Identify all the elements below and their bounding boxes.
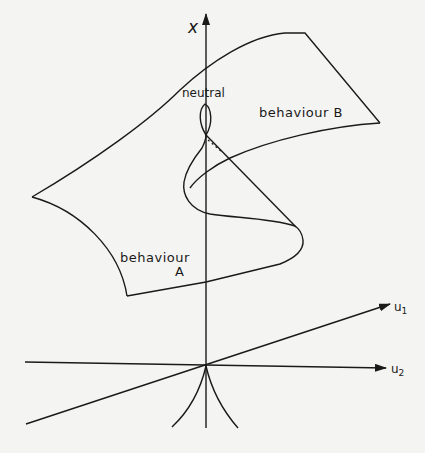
neutral-label: neutral xyxy=(182,86,225,100)
surface-upper-fold-edge xyxy=(190,123,380,188)
u1-axis-label: u1 xyxy=(394,300,407,316)
behaviour-b-label: behaviour B xyxy=(259,105,343,120)
u2-axis-label: u2 xyxy=(391,362,404,378)
behaviour-a-label-line1: behaviour xyxy=(120,250,190,265)
x-axis-label: x xyxy=(187,17,199,37)
surface-left-edge xyxy=(32,197,127,296)
behaviour-a-label-line2: A xyxy=(175,264,184,279)
hidden-fold-dotted xyxy=(208,140,222,152)
cusp-catastrophe-diagram: x u1 u2 neutral behaviour B behaviour A xyxy=(0,0,425,453)
u1-axis xyxy=(26,304,390,424)
cusp-curve-left xyxy=(172,366,206,427)
cusp-curve-right xyxy=(206,366,238,428)
fold-curve xyxy=(184,135,295,226)
